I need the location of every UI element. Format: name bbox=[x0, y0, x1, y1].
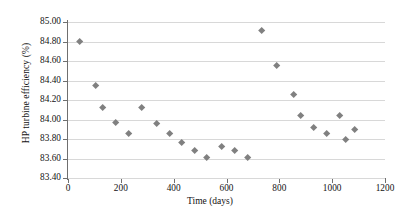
y-axis-tick-mark bbox=[63, 81, 68, 82]
y-axis-tick-mark bbox=[63, 100, 68, 101]
x-axis-tick-label: 400 bbox=[154, 184, 194, 193]
data-point bbox=[351, 125, 359, 133]
data-point bbox=[273, 62, 281, 70]
x-axis-title: Time (days) bbox=[0, 196, 420, 206]
y-axis-tick-label: 83.40 bbox=[19, 173, 61, 182]
gridline-horizontal bbox=[68, 81, 385, 82]
data-point bbox=[76, 38, 84, 46]
y-axis-tick-mark bbox=[63, 159, 68, 160]
data-point bbox=[323, 130, 331, 138]
data-point bbox=[290, 91, 298, 99]
x-axis-tick-label: 0 bbox=[48, 184, 88, 193]
y-axis-tick-mark bbox=[63, 22, 68, 23]
data-point bbox=[297, 112, 305, 120]
x-axis-tick-label: 600 bbox=[207, 184, 247, 193]
y-axis-tick-mark bbox=[63, 61, 68, 62]
data-point bbox=[153, 120, 161, 128]
gridline-horizontal bbox=[68, 139, 385, 140]
y-axis-tick-label: 85.00 bbox=[19, 17, 61, 26]
chart-figure: HP turbine efficiency (%) 83.4083.6083.8… bbox=[0, 0, 420, 222]
data-point bbox=[342, 136, 350, 144]
data-point bbox=[92, 82, 100, 90]
y-axis-tick-label: 83.80 bbox=[19, 134, 61, 143]
gridline-horizontal bbox=[68, 100, 385, 101]
y-axis-tick-label: 84.40 bbox=[19, 76, 61, 85]
plot-area bbox=[68, 22, 385, 178]
data-point bbox=[310, 123, 318, 131]
data-point bbox=[191, 147, 199, 155]
y-axis-tick-mark bbox=[63, 42, 68, 43]
gridline-horizontal bbox=[68, 42, 385, 43]
y-axis-tick-label: 84.00 bbox=[19, 115, 61, 124]
gridline-horizontal bbox=[68, 61, 385, 62]
data-point bbox=[231, 147, 239, 155]
y-axis-tick-label: 83.60 bbox=[19, 154, 61, 163]
data-point bbox=[125, 130, 133, 138]
x-axis-tick-label: 200 bbox=[101, 184, 141, 193]
gridline-horizontal bbox=[68, 159, 385, 160]
x-axis-tick-label: 800 bbox=[259, 184, 299, 193]
data-point bbox=[166, 130, 174, 138]
x-axis-tick-label: 1000 bbox=[312, 184, 352, 193]
data-point bbox=[203, 154, 211, 162]
y-axis-tick-label: 84.80 bbox=[19, 37, 61, 46]
x-axis-tick-label: 1200 bbox=[365, 184, 405, 193]
data-point bbox=[138, 104, 146, 112]
gridline-horizontal bbox=[68, 22, 385, 23]
data-point bbox=[336, 112, 344, 120]
data-point bbox=[99, 104, 107, 112]
y-axis-tick-label: 84.60 bbox=[19, 56, 61, 65]
y-axis-tick-mark bbox=[63, 120, 68, 121]
y-axis-tick-label: 84.20 bbox=[19, 95, 61, 104]
data-point bbox=[178, 139, 186, 147]
data-point bbox=[217, 143, 225, 151]
y-axis-tick-mark bbox=[63, 139, 68, 140]
data-point bbox=[244, 154, 252, 162]
data-point bbox=[258, 27, 266, 35]
